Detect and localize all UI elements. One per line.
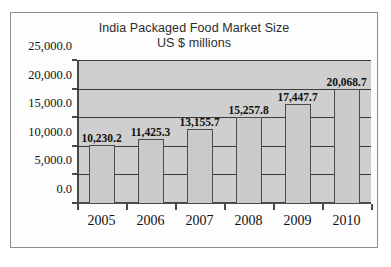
y-axis-tick-label: 0.0: [56, 182, 72, 197]
y-axis-tick-label: 15,000.0: [28, 96, 72, 111]
x-axis-tick-mark: [371, 204, 373, 210]
x-axis-label: 2007: [175, 213, 224, 229]
y-axis-tick-label: 25,000.0: [28, 39, 72, 54]
bar-slot: 13,155.7: [175, 61, 224, 204]
bar-slot: 10,230.2: [77, 61, 126, 204]
bar-slot: 11,425.3: [126, 61, 175, 204]
bar-value-label: 11,425.3: [131, 126, 171, 138]
y-axis-tick-label: 20,000.0: [28, 67, 72, 82]
plot-wrapper: 0.05,000.010,000.015,000.020,000.025,000…: [77, 61, 371, 204]
x-axis-tick-mark: [273, 204, 275, 210]
bar-slot: 20,068.7: [322, 61, 371, 204]
bar-value-label: 13,155.7: [179, 116, 219, 128]
chart-title: India Packaged Food Market Size: [11, 21, 377, 36]
bar[interactable]: [89, 145, 115, 204]
bar[interactable]: [285, 104, 311, 204]
bar[interactable]: [138, 139, 164, 204]
chart-frame: India Packaged Food Market Size US $ mil…: [10, 12, 378, 248]
x-axis-tick-mark: [322, 204, 324, 210]
x-axis-tick-mark: [77, 204, 79, 210]
x-axis-label: 2010: [322, 213, 371, 229]
bar[interactable]: [334, 89, 360, 204]
x-axis-tick-mark: [175, 204, 177, 210]
y-axis-tick-label: 10,000.0: [28, 124, 72, 139]
bar-value-label: 17,447.7: [277, 91, 317, 103]
x-axis-label: 2009: [273, 213, 322, 229]
x-axis-label: 2005: [77, 213, 126, 229]
x-axis-tick-mark: [126, 204, 128, 210]
x-axis-labels: 200520062007200820092010: [77, 213, 371, 229]
bar-value-label: 15,257.8: [228, 104, 268, 116]
y-axis-tick-label: 5,000.0: [35, 153, 73, 168]
bar-series: 10,230.211,425.313,155.715,257.817,447.7…: [77, 61, 371, 204]
bar-slot: 15,257.8: [224, 61, 273, 204]
bar-slot: 17,447.7: [273, 61, 322, 204]
x-axis-label: 2008: [224, 213, 273, 229]
bar-value-label: 20,068.7: [326, 76, 366, 88]
bar[interactable]: [236, 117, 262, 204]
x-axis-label: 2006: [126, 213, 175, 229]
x-axis-tick-mark: [224, 204, 226, 210]
x-axis-ticks: [77, 204, 371, 210]
bar-value-label: 10,230.2: [81, 132, 121, 144]
bar[interactable]: [187, 129, 213, 204]
